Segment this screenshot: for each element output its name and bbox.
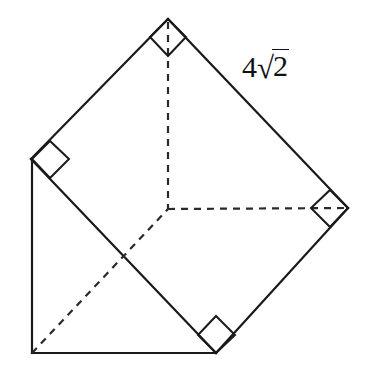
- dashed-edges-group: [32, 22, 348, 353]
- radical-group: √2: [257, 50, 289, 82]
- right-angle-mark-left: [32, 141, 69, 178]
- side-length-label: 4√2: [242, 50, 289, 82]
- right-angle-mark-bottom: [198, 316, 235, 353]
- edge-left-to-top: [31, 19, 168, 159]
- edge-right-to-bottom: [216, 208, 348, 353]
- side-length-coefficient: 4: [242, 50, 257, 83]
- radicand: 2: [272, 49, 289, 81]
- geometry-diagram-root: 4√2: [0, 0, 375, 374]
- dashed-center-to-right: [168, 208, 348, 209]
- figure-svg: [0, 0, 375, 374]
- edge-top-to-right: [168, 19, 348, 208]
